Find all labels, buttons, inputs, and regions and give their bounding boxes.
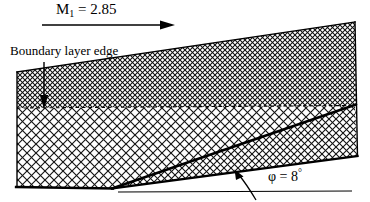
mach-value: 2.85 [90, 1, 116, 17]
mach-symbol: M [56, 1, 69, 17]
boundary-layer-edge-label: Boundary layer edge [10, 44, 118, 57]
mach-number-label: M1 = 2.85 [56, 2, 117, 19]
flat-plate-surface [16, 187, 113, 189]
curved-arrow-icon [239, 175, 256, 200]
phi-degree-unit: ° [298, 167, 302, 178]
horizontal-reference-line [118, 191, 352, 192]
phi-symbol: φ [268, 169, 276, 184]
right-arrow-head [160, 21, 175, 30]
phi-value: 8 [291, 169, 298, 184]
flowfield-mesh [0, 0, 370, 202]
compression-ramp-diagram: M1 = 2.85 Boundary layer edge φ = 8° [0, 0, 370, 202]
phi-equals: = [276, 169, 291, 184]
ramp-angle-label: φ = 8° [268, 168, 302, 184]
diagram-canvas [0, 0, 370, 202]
flow-direction-arrow [42, 21, 175, 30]
mach-equals: = [74, 1, 90, 17]
